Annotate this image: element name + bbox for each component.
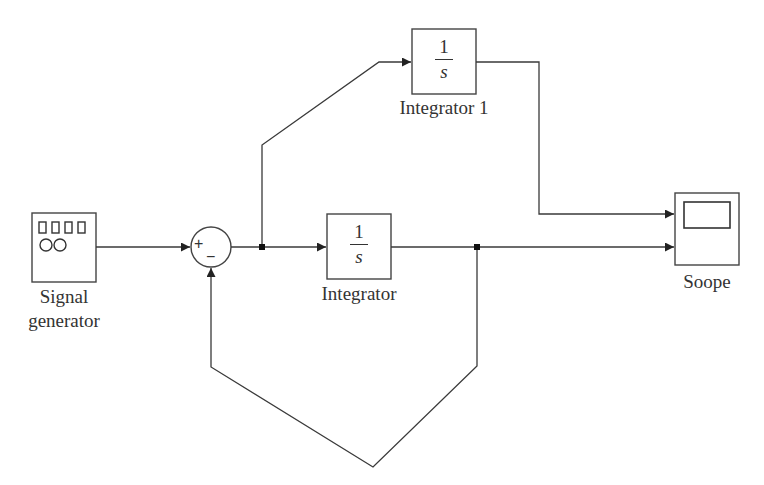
integrator-label: Integrator bbox=[299, 283, 419, 305]
fraction-bar bbox=[435, 59, 453, 60]
signal-generator-label-line1: Signal bbox=[14, 286, 114, 308]
fraction-bar bbox=[350, 244, 368, 245]
sum-plus-sign: + bbox=[194, 235, 203, 253]
line-feedback-to-sum[interactable] bbox=[211, 247, 477, 467]
scope-label: Soope bbox=[667, 271, 747, 293]
integrator1-transfer-function: 1 s bbox=[412, 37, 476, 82]
integrator-transfer-function: 1 s bbox=[327, 222, 391, 267]
integrator1-numerator: 1 bbox=[412, 37, 476, 57]
integrator-numerator: 1 bbox=[327, 222, 391, 242]
integrator1-denominator: s bbox=[412, 62, 476, 82]
integrator1-label: Integrator 1 bbox=[379, 97, 509, 119]
sum-minus-sign: − bbox=[206, 248, 215, 266]
junction-integrator-output bbox=[474, 244, 480, 250]
signal-generator-block[interactable] bbox=[32, 213, 96, 282]
signal-generator-label-line2: generator bbox=[14, 310, 114, 332]
junction-sum-output bbox=[259, 244, 265, 250]
scope-block[interactable] bbox=[675, 193, 739, 265]
integrator-denominator: s bbox=[327, 247, 391, 267]
line-integrator1-to-scope[interactable] bbox=[476, 62, 674, 214]
